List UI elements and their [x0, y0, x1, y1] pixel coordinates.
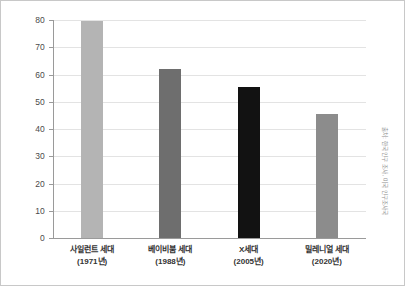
category-name: 사일런트 세대	[70, 245, 114, 254]
x-category-label: 사일런트 세대(1971년)	[53, 244, 131, 267]
x-category-label: X세대(2005년)	[210, 244, 288, 267]
y-tick-label: 10	[35, 207, 45, 216]
plot-area	[53, 20, 366, 238]
y-tick-label: 40	[35, 125, 45, 134]
bar	[238, 87, 260, 238]
category-name: X세대	[239, 245, 258, 254]
y-tick-label: 30	[35, 152, 45, 161]
category-year: (1971년)	[53, 256, 131, 268]
y-tick-label: 20	[35, 180, 45, 189]
y-tick-label: 80	[35, 16, 45, 25]
bar-chart-figure: 80706050403020100 사일런트 세대(1971년)베이비붐 세대(…	[0, 0, 405, 286]
bar	[159, 69, 181, 238]
y-tick-label: 60	[35, 71, 45, 80]
category-name: 베이비붐 세대	[148, 245, 192, 254]
category-year: (1988년)	[131, 256, 209, 268]
bar	[81, 21, 103, 238]
x-axis-baseline	[53, 238, 366, 239]
y-tick-label: 70	[35, 43, 45, 52]
category-year: (2005년)	[210, 256, 288, 268]
bar	[316, 114, 338, 238]
category-name: 밀레니얼 세대	[305, 245, 349, 254]
y-tick-label: 0	[40, 234, 45, 243]
y-tick-label: 50	[35, 98, 45, 107]
x-category-label: 베이비붐 세대(1988년)	[131, 244, 209, 267]
y-tick-mark	[49, 238, 53, 239]
source-annotation: 출처: 한국 인구 조사, 미국 인구조사국	[381, 127, 389, 245]
category-year: (2020년)	[288, 256, 366, 268]
x-category-label: 밀레니얼 세대(2020년)	[288, 244, 366, 267]
